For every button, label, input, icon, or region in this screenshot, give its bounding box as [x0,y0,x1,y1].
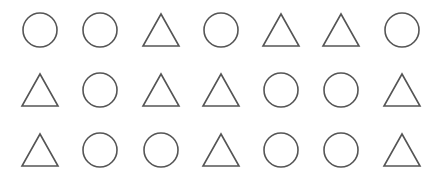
circle-icon [204,13,238,47]
triangle-icon [384,74,420,106]
triangle-icon [203,134,239,166]
triangle-icon [22,134,58,166]
triangle-icon [323,14,359,46]
triangle-icon [203,74,239,106]
circle-icon [264,73,298,107]
triangle-icon [143,74,179,106]
shape-grid [0,0,444,186]
triangle-icon [384,134,420,166]
triangle-icon [143,14,179,46]
circle-icon [83,73,117,107]
shape-grid-svg [0,0,444,186]
triangle-icon [22,74,58,106]
circle-icon [324,133,358,167]
circle-icon [23,13,57,47]
circle-icon [264,133,298,167]
circle-icon [144,133,178,167]
circle-icon [83,133,117,167]
circle-icon [324,73,358,107]
triangle-icon [263,14,299,46]
circle-icon [385,13,419,47]
circle-icon [83,13,117,47]
